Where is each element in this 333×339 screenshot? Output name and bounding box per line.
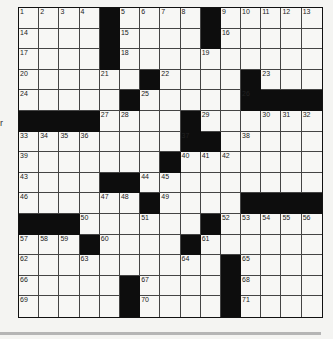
grid-cell[interactable]: [302, 29, 322, 50]
grid-cell[interactable]: 5: [120, 8, 140, 29]
grid-cell[interactable]: 40: [181, 152, 201, 173]
grid-cell[interactable]: [59, 49, 79, 70]
grid-cell[interactable]: [201, 90, 221, 111]
grid-cell[interactable]: [160, 90, 180, 111]
grid-cell[interactable]: 22: [160, 70, 180, 91]
grid-cell[interactable]: 31: [281, 111, 301, 132]
grid-cell[interactable]: 48: [120, 193, 140, 214]
grid-cell[interactable]: [59, 152, 79, 173]
grid-cell[interactable]: 52: [221, 214, 241, 235]
grid-cell[interactable]: 54: [261, 214, 281, 235]
grid-cell[interactable]: [281, 255, 301, 276]
grid-cell[interactable]: 57: [19, 235, 39, 256]
grid-cell[interactable]: 67: [140, 276, 160, 297]
grid-cell[interactable]: [100, 276, 120, 297]
grid-cell[interactable]: [221, 173, 241, 194]
grid-cell[interactable]: 17: [19, 49, 39, 70]
grid-cell[interactable]: 51: [140, 214, 160, 235]
grid-cell[interactable]: [302, 255, 322, 276]
grid-cell[interactable]: [261, 49, 281, 70]
grid-cell[interactable]: [241, 152, 261, 173]
grid-cell[interactable]: [140, 255, 160, 276]
grid-cell[interactable]: 69: [19, 296, 39, 317]
grid-cell[interactable]: [120, 235, 140, 256]
grid-cell[interactable]: [39, 296, 59, 317]
grid-cell[interactable]: [39, 152, 59, 173]
grid-cell[interactable]: [281, 276, 301, 297]
grid-cell[interactable]: [281, 49, 301, 70]
grid-cell[interactable]: 41: [201, 152, 221, 173]
grid-cell[interactable]: 29: [201, 111, 221, 132]
grid-cell[interactable]: 65: [241, 255, 261, 276]
grid-cell[interactable]: [80, 49, 100, 70]
grid-cell[interactable]: [181, 49, 201, 70]
grid-cell[interactable]: [39, 90, 59, 111]
grid-cell[interactable]: [221, 193, 241, 214]
grid-cell[interactable]: [120, 255, 140, 276]
grid-cell[interactable]: 71: [241, 296, 261, 317]
grid-cell[interactable]: 13: [302, 8, 322, 29]
grid-cell[interactable]: 18: [120, 49, 140, 70]
grid-cell[interactable]: [39, 276, 59, 297]
grid-cell[interactable]: 21: [100, 70, 120, 91]
grid-cell[interactable]: [201, 173, 221, 194]
grid-cell[interactable]: 28: [120, 111, 140, 132]
grid-cell[interactable]: [302, 70, 322, 91]
grid-cell[interactable]: [120, 132, 140, 153]
grid-cell[interactable]: [160, 111, 180, 132]
grid-cell[interactable]: [160, 276, 180, 297]
grid-cell[interactable]: [80, 173, 100, 194]
grid-cell[interactable]: [59, 90, 79, 111]
grid-cell[interactable]: [281, 132, 301, 153]
grid-cell[interactable]: [140, 235, 160, 256]
grid-cell[interactable]: [160, 214, 180, 235]
grid-cell[interactable]: [241, 235, 261, 256]
grid-cell[interactable]: [221, 111, 241, 132]
grid-cell[interactable]: [241, 29, 261, 50]
grid-cell[interactable]: [302, 49, 322, 70]
grid-cell[interactable]: 11: [261, 8, 281, 29]
grid-cell[interactable]: 3: [59, 8, 79, 29]
grid-cell[interactable]: 45: [160, 173, 180, 194]
grid-cell[interactable]: 16: [221, 29, 241, 50]
grid-cell[interactable]: 36: [80, 132, 100, 153]
grid-cell[interactable]: [181, 296, 201, 317]
grid-cell[interactable]: [59, 29, 79, 50]
grid-cell[interactable]: 9: [221, 8, 241, 29]
grid-cell[interactable]: 1: [19, 8, 39, 29]
grid-cell[interactable]: [261, 29, 281, 50]
grid-cell[interactable]: 59: [59, 235, 79, 256]
grid-cell[interactable]: [302, 173, 322, 194]
grid-cell[interactable]: [80, 296, 100, 317]
grid-cell[interactable]: [160, 29, 180, 50]
grid-cell[interactable]: [181, 70, 201, 91]
grid-cell[interactable]: [201, 296, 221, 317]
grid-cell[interactable]: [221, 90, 241, 111]
grid-cell[interactable]: [160, 49, 180, 70]
grid-cell[interactable]: [59, 173, 79, 194]
grid-cell[interactable]: [80, 70, 100, 91]
grid-cell[interactable]: [201, 255, 221, 276]
grid-cell[interactable]: [221, 49, 241, 70]
grid-cell[interactable]: 34: [39, 132, 59, 153]
grid-cell[interactable]: [140, 132, 160, 153]
grid-cell[interactable]: [201, 70, 221, 91]
grid-cell[interactable]: [100, 90, 120, 111]
grid-cell[interactable]: 39: [19, 152, 39, 173]
grid-cell[interactable]: [281, 70, 301, 91]
grid-cell[interactable]: [140, 49, 160, 70]
grid-cell[interactable]: [100, 255, 120, 276]
grid-cell[interactable]: [281, 173, 301, 194]
grid-cell[interactable]: [221, 235, 241, 256]
grid-cell[interactable]: 32: [302, 111, 322, 132]
grid-cell[interactable]: 19: [201, 49, 221, 70]
grid-cell[interactable]: [39, 173, 59, 194]
grid-cell[interactable]: [241, 49, 261, 70]
grid-cell[interactable]: [80, 193, 100, 214]
grid-cell[interactable]: [80, 90, 100, 111]
grid-cell[interactable]: [181, 90, 201, 111]
grid-cell[interactable]: [181, 193, 201, 214]
grid-cell[interactable]: [100, 214, 120, 235]
grid-cell[interactable]: [181, 214, 201, 235]
grid-cell[interactable]: 43: [19, 173, 39, 194]
